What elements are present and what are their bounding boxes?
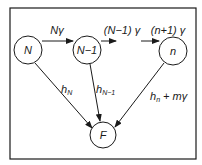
node-label-N: N — [24, 44, 32, 56]
edge-label-N-1-gamma: (N−1) γ — [104, 24, 142, 36]
edge-label-hn-plus-mgamma: hn + mγ — [150, 90, 189, 103]
diagram-canvas: N N−1 n F Nγ (N−1) γ (n+1) γ hN hN−1 hn … — [0, 0, 202, 165]
edge-n-to-F — [115, 63, 164, 127]
edge-N-to-F — [35, 63, 92, 128]
node-N-1: N−1 — [73, 36, 101, 64]
node-label-N-1: N−1 — [77, 44, 98, 56]
node-F: F — [90, 122, 116, 148]
node-label-n: n — [170, 45, 176, 57]
node-N: N — [14, 36, 42, 64]
node-n: n — [159, 37, 187, 65]
edge-label-N-gamma: Nγ — [50, 24, 65, 36]
edge-label-hN-1: hN−1 — [96, 83, 115, 96]
edge-label-n+1-gamma: (n+1) γ — [151, 24, 187, 36]
edge-label-hN: hN — [61, 83, 73, 96]
